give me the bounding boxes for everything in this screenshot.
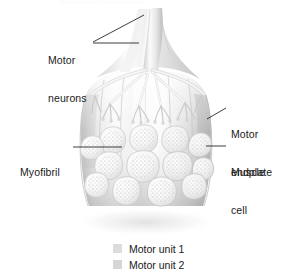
legend-item-motor-unit-2: Motor unit 2 xyxy=(113,258,184,271)
legend-label-motor-unit-1: Motor unit 1 xyxy=(129,243,184,255)
label-motor-neurons-line1: Motor xyxy=(48,54,87,67)
label-muscle-cell-line2: cell xyxy=(231,204,265,217)
legend: Motor unit 1 Motor unit 2 xyxy=(113,242,184,271)
label-motor-neurons-line2: neurons xyxy=(48,92,87,105)
muscle-cell xyxy=(162,126,189,154)
muscle-cell xyxy=(182,174,207,200)
muscle-cell xyxy=(113,177,141,205)
label-motor-endplate-line1: Motor xyxy=(231,128,272,141)
label-muscle-cell-line1: Muscle xyxy=(231,166,265,179)
legend-item-motor-unit-1: Motor unit 1 xyxy=(113,242,184,255)
legend-swatch-motor-unit-2 xyxy=(113,260,122,269)
muscle-cell xyxy=(130,125,158,153)
label-muscle-cell: Muscle cell xyxy=(231,141,265,241)
muscle-cell xyxy=(147,177,176,206)
muscle-cell xyxy=(188,133,211,157)
muscle-cell xyxy=(85,173,109,198)
label-myofibril: Myofibril xyxy=(20,141,60,204)
figure-motor-units: Motor units of a skeletal muscle xyxy=(0,0,292,275)
ground-shadow xyxy=(74,208,218,236)
label-myofibril-line1: Myofibril xyxy=(20,166,60,179)
label-motor-neurons: Motor neurons xyxy=(48,29,87,129)
legend-label-motor-unit-2: Motor unit 2 xyxy=(129,259,184,271)
legend-swatch-motor-unit-1 xyxy=(113,244,122,253)
